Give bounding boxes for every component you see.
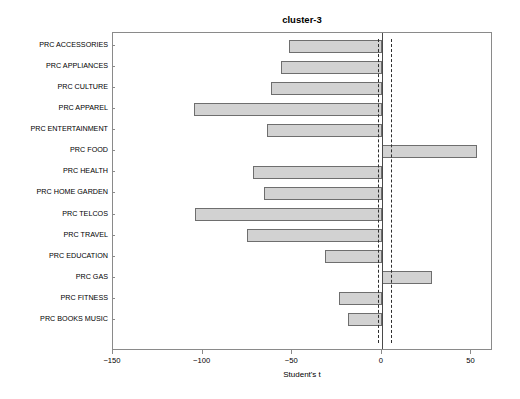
y-axis-tick-label: PRC EDUCATION bbox=[49, 252, 108, 260]
y-axis-tick-label: PRC HOME GARDEN bbox=[37, 188, 108, 196]
significance-line-positive bbox=[391, 39, 392, 343]
plot-area bbox=[112, 32, 492, 350]
y-axis-tick-mark bbox=[112, 150, 115, 151]
y-axis-tick-mark bbox=[112, 108, 115, 109]
y-axis-tick-label: PRC APPAREL bbox=[59, 104, 108, 112]
bar bbox=[348, 313, 382, 326]
significance-line-negative bbox=[378, 39, 379, 343]
x-axis-tick-label: 0 bbox=[361, 356, 401, 365]
x-axis-tick-mark bbox=[291, 350, 292, 354]
chart-figure: cluster-3 PRC ACCESSORIESPRC APPLIANCESP… bbox=[0, 0, 520, 399]
bar bbox=[289, 40, 382, 53]
x-axis-tick-mark bbox=[112, 350, 113, 354]
y-axis-tick-label: PRC APPLIANCES bbox=[46, 62, 108, 70]
y-axis-tick-mark bbox=[112, 298, 115, 299]
zero-line bbox=[382, 33, 383, 349]
y-axis-tick-label: PRC TRAVEL bbox=[64, 231, 108, 239]
bar bbox=[194, 103, 382, 116]
y-axis-tick-label: PRC ENTERTAINMENT bbox=[30, 125, 108, 133]
bar bbox=[325, 250, 382, 263]
bar bbox=[339, 292, 382, 305]
y-axis-tick-mark bbox=[112, 129, 115, 130]
y-axis-tick-label: PRC FOOD bbox=[70, 146, 108, 154]
bar bbox=[382, 271, 432, 284]
y-axis-tick-label: PRC BOOKS MUSIC bbox=[40, 315, 108, 323]
y-axis-tick-label: PRC TELCOS bbox=[62, 210, 108, 218]
y-axis-tick-mark bbox=[112, 87, 115, 88]
y-axis-tick-mark bbox=[112, 235, 115, 236]
x-axis-tick-mark bbox=[381, 350, 382, 354]
bar bbox=[264, 187, 382, 200]
bar bbox=[281, 61, 381, 74]
y-axis-tick-label: PRC CULTURE bbox=[57, 83, 108, 91]
x-axis-label: Student's t bbox=[112, 370, 492, 379]
x-axis-tick-label: −150 bbox=[92, 356, 132, 365]
chart-title: cluster-3 bbox=[112, 14, 492, 25]
x-axis-tick-mark bbox=[470, 350, 471, 354]
x-axis-tick-mark bbox=[202, 350, 203, 354]
y-axis-tick-mark bbox=[112, 192, 115, 193]
y-axis-tick-mark bbox=[112, 277, 115, 278]
x-axis-tick-label: 50 bbox=[450, 356, 490, 365]
x-axis-tick-label: −50 bbox=[271, 356, 311, 365]
y-axis-tick-mark bbox=[112, 214, 115, 215]
x-axis-tick-label: −100 bbox=[182, 356, 222, 365]
y-axis-tick-label: PRC ACCESSORIES bbox=[39, 41, 108, 49]
bar bbox=[267, 124, 382, 137]
bar bbox=[271, 82, 382, 95]
y-axis-tick-label: PRC FITNESS bbox=[60, 294, 108, 302]
bar bbox=[253, 166, 382, 179]
y-axis-category-labels: PRC ACCESSORIESPRC APPLIANCESPRC CULTURE… bbox=[0, 32, 108, 350]
y-axis-tick-mark bbox=[112, 171, 115, 172]
y-axis-tick-label: PRC GAS bbox=[76, 273, 108, 281]
y-axis-tick-label: PRC HEALTH bbox=[63, 167, 108, 175]
y-axis-tick-mark bbox=[112, 256, 115, 257]
bar bbox=[247, 229, 381, 242]
bar bbox=[195, 208, 381, 221]
bar bbox=[382, 145, 477, 158]
y-axis-tick-mark bbox=[112, 66, 115, 67]
y-axis-tick-mark bbox=[112, 319, 115, 320]
y-axis-tick-mark bbox=[112, 45, 115, 46]
